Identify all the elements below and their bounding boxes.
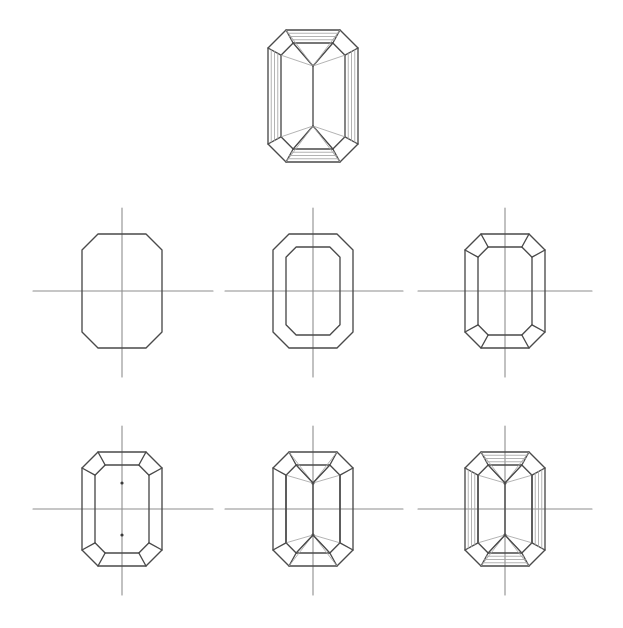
corner-facet-line [481,335,488,348]
ray-top-5 [313,30,340,66]
corner-facet-line [98,553,105,566]
corner-facet-line [273,468,286,475]
corner-facet-line [82,468,95,475]
corner-facet-line [522,335,529,348]
corner-facet-line [465,325,478,332]
apex-point-bottom [120,533,123,536]
figure-step-2 [225,208,403,377]
corner-facet-line [340,468,353,475]
corner-facet-line [139,452,146,465]
corner-facet-line [465,250,478,257]
figure-step-6 [418,426,592,595]
finished-gem-detail [268,30,358,162]
ray-bottom-5 [313,126,340,162]
corner-facet-line [273,543,286,550]
apex-point-top [120,481,123,484]
corner-facet-line [149,468,162,475]
corner-facet-line [98,452,105,465]
ray-bottom-4 [286,126,313,162]
corner-facet-line [532,325,545,332]
drawing-sheet [0,0,623,628]
corner-facet-line [532,250,545,257]
ray-top-4 [286,30,313,66]
corner-facet-line [82,543,95,550]
corner-facet-line [139,553,146,566]
figure-finished-gem [268,30,358,162]
corner-facet-line [481,234,488,247]
figure-step-4 [33,426,213,595]
figure-step-1 [33,208,213,377]
corner-facet-line [522,234,529,247]
corner-facet-line [149,543,162,550]
figure-step-5 [225,426,403,595]
figure-step-3 [418,208,592,377]
corner-facet-line [340,543,353,550]
gem-construction-diagram [0,0,623,628]
